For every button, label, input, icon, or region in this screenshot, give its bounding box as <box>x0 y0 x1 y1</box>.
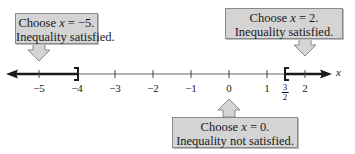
callout-middle: Choose x = 0. Inequality not satisfied. <box>172 117 298 148</box>
tick-label: −2 <box>147 82 159 94</box>
tick-label: −1 <box>185 82 197 94</box>
arrow-down-icon <box>294 38 316 56</box>
fraction-tick-label: 3 2 <box>282 83 289 102</box>
callout-line2: Inequality satisfied. <box>16 30 97 44</box>
tick-label: 2 <box>302 82 308 94</box>
callout-line2: Inequality satisfied. <box>226 25 342 39</box>
tick-label: −5 <box>33 82 45 94</box>
axis-variable-label: x <box>336 66 341 78</box>
tick-label: 1 <box>264 82 270 94</box>
fraction-denominator: 2 <box>282 93 289 102</box>
callout-right: Choose x = 2. Inequality satisfied. <box>225 8 343 39</box>
callout-line2: Inequality not satisfied. <box>173 134 297 148</box>
tick-label: −4 <box>71 82 83 94</box>
callout-line1: Choose x = 0. <box>173 120 297 134</box>
arrow-up-icon <box>218 99 240 117</box>
callout-left: Choose x = −5. Inequality satisfied. <box>15 13 98 44</box>
callout-line1: Choose x = 2. <box>226 11 342 25</box>
callout-line1: Choose x = −5. <box>16 16 97 30</box>
arrow-down-icon <box>28 43 50 61</box>
tick-label: −3 <box>109 82 121 94</box>
tick-label: 0 <box>226 82 232 94</box>
